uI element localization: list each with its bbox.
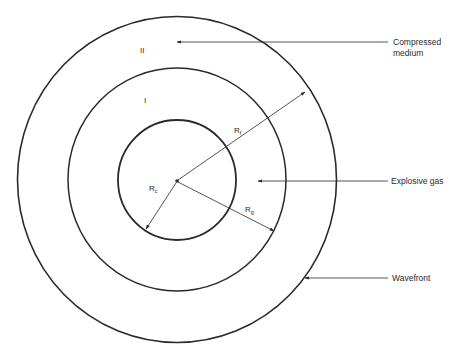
explosion-zones-diagram: Rf Rg Rc II I Compressed medium Explosiv… bbox=[0, 0, 459, 355]
radius-rf-label: Rf bbox=[234, 126, 242, 136]
radius-rg-arrow bbox=[178, 182, 274, 231]
explosive-gas-label: Explosive gas bbox=[391, 176, 443, 186]
region-i-label: I bbox=[144, 96, 146, 105]
radius-rg-label: Rg bbox=[245, 205, 254, 215]
wavefront-label: Wavefront bbox=[392, 273, 431, 283]
compressed-medium-label-line2: medium bbox=[393, 48, 423, 58]
compressed-medium-label: Compressed bbox=[393, 37, 441, 47]
region-ii-label: II bbox=[140, 46, 144, 55]
radius-rc-label: Rc bbox=[149, 184, 158, 194]
